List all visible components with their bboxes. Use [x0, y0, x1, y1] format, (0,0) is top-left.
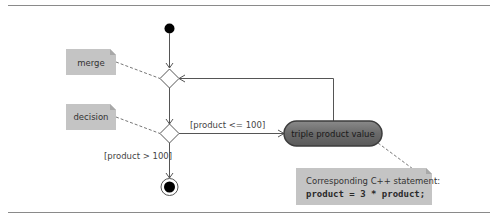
note-merge-text: merge: [77, 58, 104, 68]
action-state: triple product value: [284, 121, 382, 146]
anchor-merge: [116, 62, 160, 79]
note-cpp-code: product = 3 * product;: [306, 189, 425, 199]
note-cpp-title: Corresponding C++ statement:: [306, 176, 440, 186]
note-decision: decision: [66, 104, 116, 130]
decision-node: [160, 124, 179, 143]
note-merge: merge: [66, 49, 116, 75]
activity-diagram: merge decision [product <= 100] [product…: [0, 0, 498, 222]
anchor-cpp-note: [378, 143, 413, 169]
note-cpp: Corresponding C++ statement: product = 3…: [296, 168, 440, 205]
merge-node: [160, 69, 179, 88]
action-label: triple product value: [291, 129, 375, 139]
final-state-core: [164, 182, 175, 193]
guard-true: [product <= 100]: [190, 120, 265, 130]
guard-false: [product > 100]: [104, 151, 172, 161]
flow-action-to-merge: [179, 79, 334, 122]
anchor-decision: [116, 117, 160, 134]
initial-state: [165, 24, 175, 34]
note-decision-text: decision: [73, 112, 108, 122]
